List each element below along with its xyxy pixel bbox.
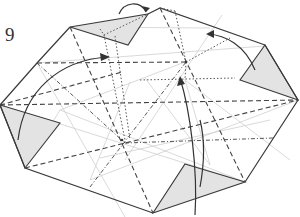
vertex-dots: [121, 61, 188, 142]
shaded-flap-right: [240, 45, 298, 100]
origami-diagram: [0, 0, 300, 217]
shaded-flap-top: [70, 14, 148, 45]
light-creases: [0, 15, 298, 217]
shaded-flap-bottom: [153, 164, 245, 213]
arrow-heads: [100, 6, 214, 86]
arrow-top-flip: [119, 4, 146, 14]
shaded-flaps: [0, 14, 298, 213]
shaded-flap-left: [0, 105, 60, 168]
arrowhead-top: [142, 6, 150, 12]
